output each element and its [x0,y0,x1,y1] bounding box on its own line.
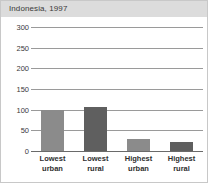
x-tick-label-line: rural [74,164,117,174]
y-tick-label: 300 [3,23,29,32]
x-tick-label-line: Highest [160,154,203,164]
page-title: Indonesia, 1997 [9,4,67,13]
x-tick-label-line: urban [117,164,160,174]
x-axis-tick-labels: LowesturbanLowestruralHighesturbanHighes… [31,154,203,182]
x-tick-label-line: Lowest [74,154,117,164]
gridline [31,89,203,90]
x-tick-label-line: urban [31,164,74,174]
bar [127,139,150,151]
y-axis-tick-labels: 050100150200250300 [1,27,29,151]
chart-card: Indonesia, 1997 050100150200250300 Lowes… [0,0,208,183]
gridline [31,68,203,69]
y-tick-label: 100 [3,105,29,114]
bar [84,107,107,151]
x-tick-label: Lowesturban [31,154,74,173]
x-tick-label: Highesturban [117,154,160,173]
gridline [31,48,203,49]
bar [41,110,64,151]
plot-area [31,27,203,151]
x-tick-label-line: Lowest [31,154,74,164]
y-tick-label: 50 [3,126,29,135]
bar [170,142,193,152]
x-tick-label: Highestrural [160,154,203,173]
y-tick-label: 250 [3,43,29,52]
y-tick-label: 150 [3,85,29,94]
y-tick-label: 0 [3,147,29,156]
x-tick-label-line: rural [160,164,203,174]
x-axis-line [31,151,203,152]
x-tick-label-line: Highest [117,154,160,164]
gridline [31,27,203,28]
x-tick-label: Lowestrural [74,154,117,173]
y-tick-label: 200 [3,64,29,73]
